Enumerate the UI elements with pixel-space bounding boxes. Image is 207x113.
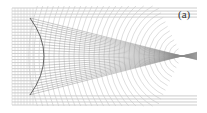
refracted-rays (29, 18, 197, 95)
panel-label: (a) (178, 9, 190, 20)
ray-diagram (0, 0, 207, 113)
